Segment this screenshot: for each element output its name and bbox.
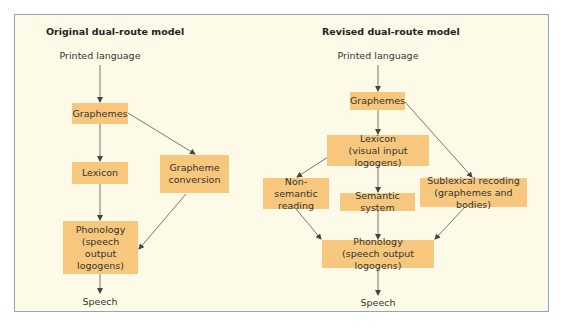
right-graphemes-label: Graphemes	[350, 95, 405, 107]
arrow-nonsemantic-to-phonology-right	[296, 209, 321, 239]
right-graphemes-box: Graphemes	[350, 92, 405, 110]
right-phonology-box: Phonology (speech output logogens)	[322, 240, 434, 268]
right-sublexical-box: Sublexical recoding (graphemes and bodie…	[420, 178, 527, 207]
right-input-label: Printed language	[338, 50, 419, 61]
right-nonsemantic-box: Non-semantic reading	[263, 178, 329, 209]
right-output-label: Speech	[361, 297, 396, 308]
right-lexicon-box: Lexicon (visual input logogens)	[327, 135, 429, 166]
right-sublexical-line2: (graphemes and bodies)	[422, 187, 525, 211]
left-graphemes-label: Graphemes	[72, 108, 127, 120]
right-semantic-system-box: Semantic system	[340, 193, 415, 211]
left-model-title: Original dual-route model	[46, 26, 184, 37]
arrow-lexicon-to-nonsemantic-right	[297, 157, 328, 177]
left-input-label: Printed language	[60, 50, 141, 61]
right-nonsemantic-line1: Non-semantic	[265, 176, 327, 200]
right-lexicon-line1: Lexicon	[360, 133, 396, 145]
right-sublexical-line1: Sublexical recoding	[427, 175, 520, 187]
left-phonology-line2: (speech output	[65, 236, 136, 260]
arrow-conversion-to-phonology-left	[139, 194, 186, 249]
right-phonology-line1: Phonology	[353, 236, 403, 248]
left-lexicon-label: Lexicon	[82, 167, 118, 179]
left-conversion-line2: conversion	[169, 174, 221, 186]
left-graphemes-box: Graphemes	[72, 103, 128, 124]
left-phonology-line1: Phonology	[76, 224, 126, 236]
left-conversion-line1: Grapheme	[169, 162, 219, 174]
arrow-sublexical-to-phonology-right	[435, 207, 465, 239]
left-phonology-line3: logogens)	[77, 260, 124, 272]
right-phonology-line2: (speech output logogens)	[324, 248, 432, 272]
left-grapheme-conversion-box: Grapheme conversion	[160, 155, 229, 193]
right-semantic-system-label: Semantic system	[342, 190, 413, 214]
left-output-label: Speech	[83, 296, 118, 307]
right-model-title: Revised dual-route model	[322, 26, 460, 37]
left-lexicon-box: Lexicon	[72, 162, 128, 184]
right-nonsemantic-line2: reading	[278, 200, 314, 212]
right-lexicon-line2: (visual input logogens)	[329, 145, 427, 169]
left-phonology-box: Phonology (speech output logogens)	[63, 221, 138, 274]
arrow-graphemes-to-conversion-left	[128, 113, 195, 154]
